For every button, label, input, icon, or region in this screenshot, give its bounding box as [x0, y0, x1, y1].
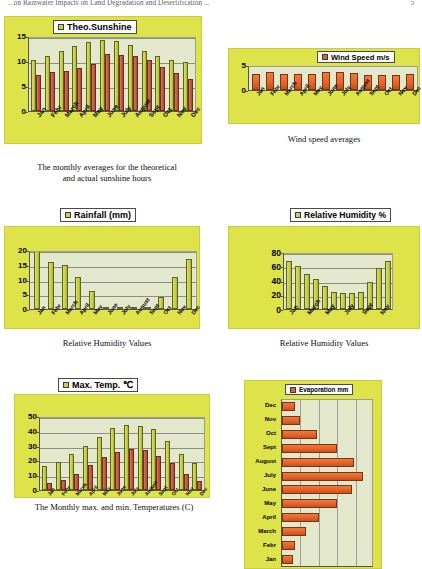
header-title: ...on Rainwater Impacts on Land Degradat… [8, 0, 210, 7]
bar [376, 268, 382, 309]
figure-theoretical-sunshine: Theo.Sunshine 051015 JanFebrMarchAprilMa… [4, 16, 210, 186]
figure-caption-sunshine: The monthly averages for the theoretical… [4, 162, 210, 184]
figure-caption-wind: Wind speed averages [228, 134, 420, 145]
bar [186, 259, 192, 309]
y-axis-tick [25, 62, 28, 63]
bar [282, 541, 295, 550]
bar [282, 555, 293, 564]
bar-group [149, 418, 163, 490]
y-axis-tick-label: 15 [12, 261, 27, 270]
bar-group [282, 444, 372, 453]
bar [91, 64, 96, 111]
y-axis-tick-label: Jan [266, 556, 276, 562]
y-axis-tick-label: 5 [12, 290, 27, 299]
bar-group [163, 418, 177, 490]
bar-group [30, 252, 44, 309]
bar [282, 430, 317, 439]
bar-group [282, 555, 372, 564]
y-axis-tick-label: 20 [265, 290, 281, 300]
bar-group [282, 416, 372, 425]
bar [286, 261, 292, 309]
bar-group [374, 254, 383, 309]
chart-legend-humidity: Relative Humidity % [290, 208, 391, 222]
y-axis-tick-label: 0 [12, 305, 27, 314]
y-axis-tick-label: August [255, 458, 276, 464]
bar [322, 286, 328, 309]
bar-group [112, 38, 126, 111]
y-axis-tick-label: 80 [265, 248, 281, 258]
y-axis-tick-label: 30 [21, 442, 37, 451]
y-axis-tick-label: July [264, 472, 276, 478]
bar [89, 291, 95, 309]
legend-label: Relative Humidity % [304, 210, 386, 220]
bar-group [43, 38, 57, 111]
y-axis-tick-label: 0 [265, 305, 281, 315]
plot-area-evaporation [281, 399, 373, 567]
y-axis-tick-label: 60 [265, 262, 281, 272]
chart-panel-sunshine: Theo.Sunshine 051015 JanFebrMarchAprilMa… [4, 16, 202, 144]
bar-group [54, 418, 68, 490]
y-axis-tick-label: 40 [265, 276, 281, 286]
bar-group [168, 252, 182, 309]
bar [48, 262, 54, 309]
bar-group [282, 402, 372, 411]
bar-group [282, 430, 372, 439]
bar-group [282, 513, 372, 522]
y-axis-tick [280, 310, 283, 311]
y-axis-tick [25, 87, 28, 88]
y-axis-tick-label: 40 [21, 427, 37, 436]
bar-group [190, 418, 204, 490]
bar [282, 527, 306, 536]
chart-panel-temperature: 01020304050 JanFebrMarchAprilMayJuneJuly… [14, 394, 210, 498]
bar-group [58, 252, 72, 309]
bar-group [383, 254, 392, 309]
chart-legend-wind: Wind Speed m/s [317, 51, 395, 63]
bar-group [154, 252, 168, 309]
bar-group [127, 252, 141, 309]
bar-group [282, 485, 372, 494]
y-axis-tick [36, 417, 39, 418]
legend-swatch-icon [290, 387, 296, 393]
y-axis-tick [245, 91, 248, 92]
bar-group [84, 38, 98, 111]
legend-label: Wind Speed m/s [331, 53, 390, 62]
y-axis-tick-label: May [264, 500, 276, 506]
y-axis-tick-label: 50 [21, 412, 37, 421]
bar-series-container [282, 400, 372, 566]
chart-panel-rainfall: 05101520 JanFebrMarchAprilMayJuneJulyAug… [4, 226, 200, 329]
plot-area-temperature [39, 417, 205, 491]
y-axis-tick-label: Febr [263, 542, 276, 548]
y-axis-tick-label: June [262, 486, 276, 492]
bar-group [99, 252, 113, 309]
y-axis-tick [26, 251, 29, 252]
y-axis-tick [245, 66, 248, 67]
bar-group [282, 527, 372, 536]
bar [50, 72, 55, 111]
bar-group [177, 418, 191, 490]
y-axis-tick-label: Dec [265, 402, 276, 408]
y-axis-tick [36, 461, 39, 462]
bar [340, 293, 346, 309]
y-axis-tick-label: 0 [10, 107, 26, 116]
legend-swatch-icon [58, 24, 64, 30]
bar-group [153, 38, 167, 111]
bar-group [182, 252, 196, 309]
y-axis-tick [280, 296, 283, 297]
bar-series-container [40, 418, 204, 490]
bar-group [113, 252, 127, 309]
bar [282, 485, 352, 494]
bar-group [57, 38, 71, 111]
bar [129, 449, 134, 490]
bar [282, 458, 354, 467]
bar [282, 472, 363, 481]
bar-group [122, 418, 136, 490]
bar-group [98, 38, 112, 111]
legend-swatch-icon [295, 212, 301, 218]
y-axis-tick-label: April [262, 514, 276, 520]
chart-legend-rainfall: Rainfall (mm) [60, 208, 136, 222]
y-axis-tick-label: 20 [12, 246, 27, 255]
figure-caption-temperature: The Monthly max. and min. Temperatures (… [8, 502, 220, 513]
bar [64, 71, 69, 111]
y-axis-tick-label: Nov [265, 416, 276, 422]
bar [156, 456, 161, 490]
